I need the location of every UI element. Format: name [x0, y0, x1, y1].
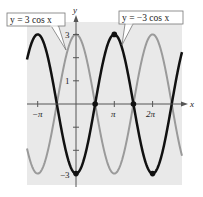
y-tick-label-1: 1 [65, 76, 70, 86]
y-axis-arrow-icon [74, 15, 79, 22]
y-axis-label: y [72, 5, 77, 15]
x-tick-label-2pi: 2π [146, 109, 156, 119]
x-axis-label: x [189, 99, 194, 109]
x-tick-label-pi: π [111, 109, 116, 119]
data-point [150, 171, 156, 177]
y-tick-label-3: 3 [65, 30, 70, 40]
data-point [92, 101, 98, 107]
x-tick-label-neg-pi: −π [32, 109, 43, 119]
y-tick-label-neg3: −3 [60, 170, 70, 180]
callout-left-text: y = 3 cos x [10, 15, 52, 25]
data-point [111, 32, 117, 38]
data-point [73, 171, 79, 177]
x-axis-arrow-icon [181, 102, 188, 107]
data-point [131, 101, 137, 107]
callout-right-text: y = −3 cos x [122, 13, 169, 23]
chart: −π π 2π 3 1 −3 x y y = 3 cos x y = −3 co… [0, 0, 203, 197]
